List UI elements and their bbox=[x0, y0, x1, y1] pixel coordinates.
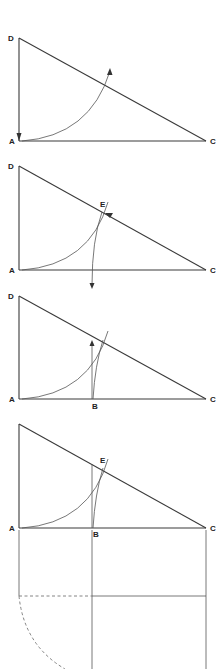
hypotenuse-dc bbox=[19, 166, 206, 270]
arrowhead-up-icon bbox=[107, 68, 113, 75]
label-a: A bbox=[9, 137, 15, 146]
panel-1: D A C bbox=[8, 34, 216, 146]
arc-e-to-ac bbox=[92, 212, 102, 285]
panel-3: D A B C bbox=[8, 292, 216, 411]
panel-2: D E A C bbox=[8, 162, 216, 289]
arrowhead-down-icon bbox=[90, 283, 95, 289]
hypotenuse-dc bbox=[19, 424, 206, 528]
arrowhead-up-icon bbox=[90, 340, 95, 346]
arc-a-to-e bbox=[22, 202, 108, 270]
label-c: C bbox=[210, 395, 216, 404]
hypotenuse-dc bbox=[19, 296, 206, 399]
golden-rectangle-extension bbox=[19, 530, 206, 669]
label-b: B bbox=[93, 530, 99, 539]
label-d: D bbox=[8, 34, 14, 43]
label-e: E bbox=[100, 456, 106, 465]
label-c: C bbox=[210, 266, 216, 275]
construction-diagram: D A C D E A C D A B C E bbox=[0, 0, 223, 669]
label-d: D bbox=[8, 162, 14, 171]
label-a: A bbox=[9, 524, 15, 533]
label-e: E bbox=[100, 200, 106, 209]
label-d: D bbox=[8, 292, 14, 301]
panel-4: E A B C bbox=[9, 424, 216, 539]
arrowhead-down-icon bbox=[17, 133, 22, 141]
arc-a-to-hypotenuse bbox=[22, 71, 110, 141]
hypotenuse-dc bbox=[19, 38, 206, 141]
arc-a-to-e bbox=[22, 459, 108, 528]
label-a: A bbox=[9, 266, 15, 275]
dashed-arc bbox=[19, 596, 65, 669]
label-a: A bbox=[9, 395, 15, 404]
arc-a-to-e bbox=[22, 331, 108, 399]
label-b: B bbox=[92, 402, 98, 411]
label-c: C bbox=[210, 137, 216, 146]
label-c: C bbox=[210, 524, 216, 533]
